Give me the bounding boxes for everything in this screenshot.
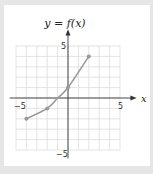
data-point	[66, 86, 70, 90]
y-axis-arrow-icon	[66, 29, 71, 35]
y-tick-max: 5	[61, 42, 66, 51]
chart: y = f(x) x −5 5 5 −5	[0, 0, 153, 174]
data-point	[24, 117, 28, 121]
x-tick-max: 5	[118, 102, 123, 111]
x-axis-label: x	[141, 93, 147, 104]
chart-title: y = f(x)	[43, 17, 85, 30]
x-tick-min: −5	[14, 102, 26, 111]
x-axis-arrow-icon	[130, 96, 136, 101]
data-point	[87, 54, 91, 58]
y-tick-min: −5	[56, 150, 68, 159]
data-point	[45, 106, 49, 110]
axes	[10, 29, 137, 158]
